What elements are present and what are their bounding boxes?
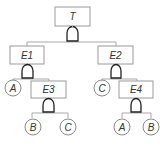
basic-event-a[interactable]: A [114,119,130,135]
event-label: T [69,11,76,22]
basic-event-label: C [64,122,72,133]
basic-event-c[interactable]: C [94,80,110,96]
and-gate-icon [43,99,54,113]
event-label: E3 [42,84,55,95]
fault-tree-diagram: T E1 A E3 B C E2 C E4 [0,0,160,150]
event-label: E1 [21,50,33,61]
event-node-e1[interactable]: E1 [10,46,44,64]
event-label: E4 [130,84,143,95]
basic-event-label: A [118,122,126,133]
basic-event-label: B [30,122,37,133]
basic-event-c[interactable]: C [60,119,76,135]
basic-event-b[interactable]: B [143,119,159,135]
and-gate-icon [131,99,141,113]
event-node-e3[interactable]: E3 [31,81,66,98]
event-node-e4[interactable]: E4 [119,81,153,98]
and-gate-icon [22,65,33,78]
basic-event-b[interactable]: B [25,119,41,135]
basic-event-label: C [98,83,106,94]
event-label: E2 [109,50,122,61]
event-node-e2[interactable]: E2 [98,46,133,64]
and-gate-icon [67,27,78,41]
and-gate-icon [111,65,121,78]
basic-event-label: B [148,122,155,133]
basic-event-a[interactable]: A [5,80,21,96]
event-node-t[interactable]: T [55,7,90,26]
basic-event-label: A [9,83,17,94]
